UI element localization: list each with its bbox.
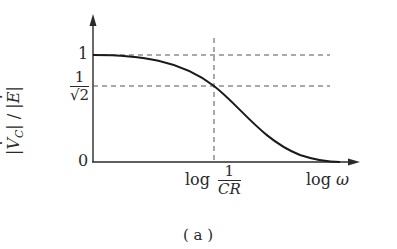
y-tick-one: 1 bbox=[78, 44, 88, 63]
abs-bar: | bbox=[4, 150, 23, 155]
x-tick-corner-fraction: 1 CR bbox=[218, 164, 241, 197]
y-tick-zero: 0 bbox=[78, 151, 88, 170]
divider: | / | bbox=[4, 103, 23, 129]
plot-canvas bbox=[0, 0, 397, 249]
y-axis-arrow-icon bbox=[90, 14, 97, 26]
y-tick-inv-sqrt2: 1 √2 bbox=[70, 70, 89, 103]
e-dot-symbol: E· bbox=[4, 92, 23, 104]
x-axis-arrow-icon bbox=[348, 159, 360, 166]
subscript-c: C bbox=[13, 130, 26, 138]
y-axis-label: |V·C| / |E·| bbox=[4, 86, 26, 155]
response-curve bbox=[93, 55, 340, 162]
v-dot-symbol: V· bbox=[4, 138, 23, 150]
x-axis-label: log ω bbox=[306, 170, 349, 189]
x-tick-log-prefix: log bbox=[185, 170, 210, 189]
figure-caption: ( a ) bbox=[183, 226, 213, 244]
